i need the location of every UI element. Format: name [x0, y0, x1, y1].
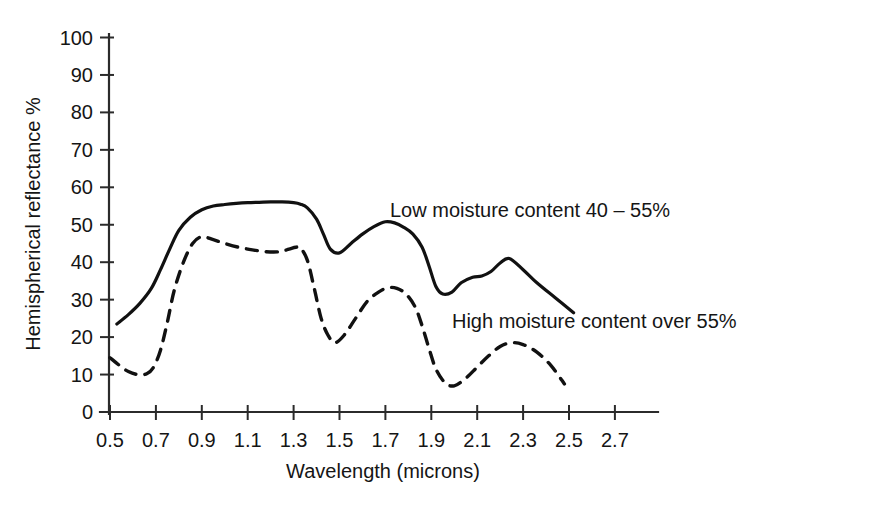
x-axis-group: 0.50.70.91.11.31.51.71.92.12.32.52.7 Wav… [96, 405, 658, 482]
y-axis-ticks: 0102030405060708090100 [60, 27, 114, 424]
x-tick-label: 2.1 [463, 429, 491, 451]
y-tick-label: 20 [71, 326, 93, 348]
x-tick-label: 1.7 [371, 429, 399, 451]
x-tick-label: 1.3 [280, 429, 308, 451]
y-tick-label: 30 [71, 289, 93, 311]
y-tick-label: 100 [60, 27, 93, 49]
y-tick-label: 70 [71, 139, 93, 161]
x-tick-label: 2.3 [509, 429, 537, 451]
x-tick-label: 1.9 [417, 429, 445, 451]
series-annotation-2: High moisture content over 55% [452, 310, 737, 332]
series-group [110, 202, 574, 386]
y-tick-label: 80 [71, 101, 93, 123]
y-tick-label: 50 [71, 214, 93, 236]
y-tick-label: 60 [71, 176, 93, 198]
y-tick-label: 10 [71, 364, 93, 386]
y-axis-group: 0102030405060708090100 Hemispherical ref… [22, 27, 114, 424]
reflectance-chart: 0102030405060708090100 Hemispherical ref… [0, 0, 884, 517]
x-axis-title: Wavelength (microns) [286, 460, 480, 482]
x-tick-label: 2.7 [601, 429, 629, 451]
x-tick-label: 0.9 [188, 429, 216, 451]
x-tick-label: 1.5 [326, 429, 354, 451]
x-tick-label: 2.5 [555, 429, 583, 451]
y-tick-label: 40 [71, 251, 93, 273]
y-axis-title: Hemispherical reflectance % [22, 97, 44, 351]
x-tick-label: 0.5 [96, 429, 124, 451]
chart-svg: 0102030405060708090100 Hemispherical ref… [0, 0, 884, 517]
y-tick-label: 90 [71, 64, 93, 86]
series-annotation-1: Low moisture content 40 – 55% [390, 199, 670, 221]
x-tick-label: 0.7 [142, 429, 170, 451]
series-annotations: Low moisture content 40 – 55%High moistu… [390, 199, 737, 331]
x-tick-label: 1.1 [234, 429, 262, 451]
y-tick-label: 0 [82, 401, 93, 423]
